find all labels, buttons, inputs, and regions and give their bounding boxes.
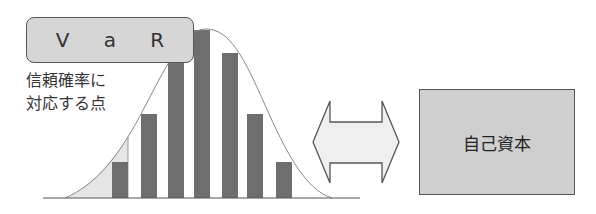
histogram-bar — [276, 162, 292, 198]
confidence-note-line2: 対応する点 — [26, 92, 106, 115]
confidence-point-note: 信頼確率に 対応する点 — [26, 69, 106, 115]
histogram-bar — [222, 53, 238, 198]
histogram-bar — [141, 114, 157, 198]
histogram-bar — [247, 114, 263, 198]
histogram-bar — [168, 50, 184, 198]
histogram-bar — [194, 30, 210, 198]
equity-capital-box: 自己資本 — [419, 89, 575, 195]
confidence-note-line1: 信頼確率に — [26, 69, 106, 92]
var-label: V a R — [26, 17, 194, 63]
double-arrow-icon — [313, 101, 399, 183]
equity-capital-label: 自己資本 — [463, 130, 531, 155]
histogram-bar — [112, 162, 128, 198]
var-diagram: V a R 信頼確率に 対応する点 自己資本 — [0, 0, 596, 214]
